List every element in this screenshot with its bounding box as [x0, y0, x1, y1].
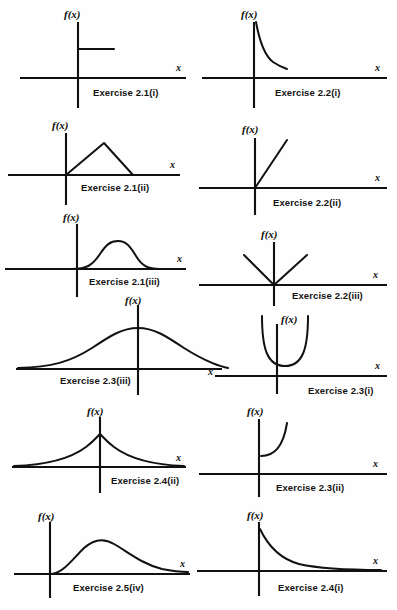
x-axis-label: x — [180, 558, 185, 569]
y-axis-label: f(x) — [261, 228, 278, 240]
panel-ex-2-2-ii: f(x) x Exercise 2.2(ii) — [197, 120, 397, 215]
x-axis-label: x — [373, 458, 378, 469]
panel-caption: Exercise 2.4(i) — [278, 582, 343, 593]
curve-exponential-decay — [260, 529, 381, 570]
y-axis-label: f(x) — [52, 119, 69, 131]
y-axis-label: f(x) — [242, 123, 259, 135]
panel-caption: Exercise 2.4(ii) — [111, 475, 179, 486]
panel-ex-2-3-ii: f(x) x Exercise 2.3(ii) — [197, 405, 397, 505]
curve-increasing-convex — [261, 423, 287, 456]
curve-bell-bounded — [72, 241, 160, 269]
panel-caption: Exercise 2.1(iii) — [89, 276, 160, 287]
panel-caption: Exercise 2.1(ii) — [81, 182, 149, 193]
y-axis-label: f(x) — [247, 509, 264, 521]
x-axis-label: x — [373, 269, 378, 280]
panel-caption: Exercise 2.2(ii) — [273, 197, 341, 208]
plot-ex-2-1-ii — [0, 125, 197, 205]
panel-caption: Exercise 2.3(ii) — [276, 482, 344, 493]
curve-normal — [18, 328, 228, 368]
plot-ex-2-5-iv — [0, 508, 197, 608]
y-axis-label: f(x) — [241, 8, 258, 20]
plot-ex-2-4-i — [197, 508, 397, 608]
y-axis-label: f(x) — [125, 294, 142, 306]
curve-steep-decay — [256, 22, 287, 69]
panel-ex-2-3-iii: f(x) Exercise 2.3(iii) — [0, 300, 230, 395]
x-axis-label: x — [375, 62, 380, 73]
y-axis-label: f(x) — [63, 211, 80, 223]
y-axis-label: f(x) — [247, 405, 264, 417]
x-axis-label: x — [375, 360, 380, 371]
x-axis-label: x — [176, 452, 181, 463]
curve-linear-ramp — [255, 140, 287, 188]
panel-ex-2-3-i: f(x) x Exercise 2.3(i) — [215, 308, 397, 408]
panel-ex-2-4-i: f(x) x Exercise 2.4(i) — [197, 508, 397, 608]
figure-sheet: f(x) x Exercise 2.1(i) f(x) x Exercise 2… — [0, 0, 397, 610]
panel-caption: Exercise 2.1(i) — [93, 87, 158, 98]
panel-caption: Exercise 2.3(iii) — [60, 375, 131, 386]
panel-ex-2-1-ii: f(x) x Exercise 2.1(ii) — [0, 125, 197, 205]
x-axis-label: x — [176, 62, 181, 73]
y-axis-label: f(x) — [281, 313, 298, 325]
y-axis-label: f(x) — [87, 405, 104, 417]
panel-ex-2-1-i: f(x) x Exercise 2.1(i) — [0, 8, 197, 108]
panel-ex-2-1-iii: f(x) x Exercise 2.1(iii) — [0, 212, 197, 297]
x-axis-label: x — [170, 159, 175, 170]
y-axis-label: f(x) — [64, 8, 81, 20]
curve-triangular — [66, 143, 133, 175]
curve-v-shape — [244, 255, 307, 285]
panel-caption: Exercise 2.2(iii) — [292, 290, 363, 301]
x-axis-label: x — [177, 253, 182, 264]
panel-caption: Exercise 2.3(i) — [308, 385, 373, 396]
curve-right-skewed — [50, 540, 188, 574]
panel-ex-2-5-iv: f(x) x Exercise 2.5(iv) — [0, 508, 197, 608]
x-axis-label: x — [375, 172, 380, 183]
panel-caption: Exercise 2.2(i) — [275, 87, 340, 98]
panel-caption: Exercise 2.5(iv) — [73, 582, 144, 593]
panel-ex-2-2-i: f(x) x Exercise 2.2(i) — [197, 8, 397, 108]
x-axis-label-ex-2-3-iii: x — [208, 366, 213, 377]
y-axis-label: f(x) — [38, 510, 55, 522]
x-axis-label: x — [373, 555, 378, 566]
panel-ex-2-4-ii: f(x) x Exercise 2.4(ii) — [0, 405, 197, 500]
